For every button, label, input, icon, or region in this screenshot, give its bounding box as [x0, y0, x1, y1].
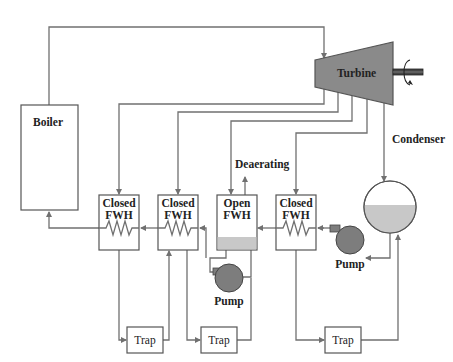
trap-3: Trap	[325, 327, 361, 353]
svg-text:FWH: FWH	[282, 209, 310, 221]
svg-text:Trap: Trap	[332, 334, 354, 347]
svg-text:FWH: FWH	[105, 209, 133, 221]
extraction-line-4	[296, 99, 367, 194]
svg-text:Closed: Closed	[279, 197, 313, 209]
main-steam-line	[49, 27, 324, 105]
svg-text:Closed: Closed	[161, 197, 195, 209]
closed-fwh-1: Closed FWH	[99, 195, 139, 250]
trap1-out-line	[163, 251, 169, 340]
pump-1: Pump	[213, 264, 244, 308]
trap-2: Trap	[201, 327, 237, 353]
condenser: Condenser	[364, 133, 445, 235]
fwh2-drain-line	[187, 250, 200, 340]
closed-fwh-2: Closed FWH	[158, 195, 198, 250]
fwh3-drain-line	[296, 250, 324, 340]
extraction-line-3	[231, 96, 352, 194]
turbine-label: Turbine	[337, 67, 376, 79]
feedwater-to-boiler-line	[49, 212, 99, 228]
boiler: Boiler	[21, 105, 78, 210]
extraction-line-2	[178, 92, 338, 194]
rankine-cycle-diagram: Boiler Turbine Condenser Deaerating Clos…	[0, 0, 453, 362]
svg-text:FWH: FWH	[223, 209, 251, 221]
extraction-line-1	[119, 89, 324, 194]
trap3-out-line	[361, 235, 398, 340]
fwh1-drain-line	[119, 250, 126, 340]
pump-2: Pump	[330, 225, 365, 271]
open-fwh: Open FWH	[217, 195, 257, 250]
svg-text:Trap: Trap	[208, 334, 230, 347]
condensate-line	[366, 233, 390, 258]
shaft-rotation-icon	[393, 60, 423, 85]
condenser-label: Condenser	[392, 133, 445, 145]
svg-text:Trap: Trap	[134, 334, 156, 347]
turbine: Turbine	[315, 42, 393, 105]
boiler-label: Boiler	[33, 116, 63, 128]
pump1-to-fwh2-line	[200, 228, 206, 258]
svg-text:Closed: Closed	[102, 197, 136, 209]
pump-2-label: Pump	[335, 258, 364, 271]
svg-text:FWH: FWH	[164, 209, 192, 221]
deaerating-label: Deaerating	[235, 158, 290, 171]
closed-fwh-3: Closed FWH	[276, 195, 316, 250]
pump1-discharge-line	[243, 250, 251, 277]
pump-1-label: Pump	[214, 295, 243, 308]
trap-1: Trap	[127, 327, 163, 353]
